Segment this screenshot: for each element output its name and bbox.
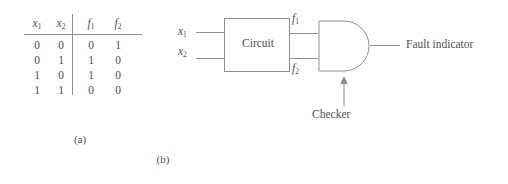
truth-table: x1 x2 f1 f2 0 0 0 1 0 1 1 0 1 0 1 0 1 1 … (24, 14, 142, 98)
signal-label-f2: f2 (292, 62, 299, 76)
table-row: 0 (107, 53, 129, 67)
caption-part-a: (a) (0, 133, 160, 145)
signal-label-f1: f1 (292, 12, 299, 26)
signal-wire-f2 (290, 58, 318, 59)
circuit-block: Circuit (224, 18, 290, 72)
checker-arrow-icon (338, 76, 350, 106)
table-row: 1 (26, 68, 48, 82)
table-row: 0 (50, 38, 72, 52)
table-row: 0 (107, 83, 129, 97)
table-row: 0 (50, 68, 72, 82)
table-header-x1: x1 (26, 16, 48, 34)
output-label: Fault indicator (406, 38, 473, 50)
table-header-f2: f2 (107, 16, 129, 34)
table-row: 1 (80, 53, 102, 67)
table-header-f1: f1 (80, 16, 102, 34)
table-row: 0 (80, 38, 102, 52)
table-row: 1 (50, 53, 72, 67)
input-label-x1: x1 (178, 25, 187, 39)
table-header-x2: x2 (50, 16, 72, 34)
table-top-rule (24, 34, 142, 35)
table-row: 1 (80, 68, 102, 82)
input-wire-x2 (196, 58, 224, 59)
table-row: 1 (26, 83, 48, 97)
signal-wire-f1 (290, 33, 318, 34)
table-vertical-divider (72, 14, 73, 95)
table-row: 0 (107, 68, 129, 82)
table-row: 1 (107, 38, 129, 52)
input-label-x2: x2 (178, 45, 187, 59)
table-row: 1 (50, 83, 72, 97)
caption-part-b: (b) (103, 153, 223, 165)
table-row: 0 (26, 38, 48, 52)
output-wire (370, 45, 400, 46)
figure-root: x1 x2 f1 f2 0 0 0 1 0 1 1 0 1 0 1 0 1 1 … (0, 0, 508, 184)
table-row: 0 (80, 83, 102, 97)
table-row: 0 (26, 53, 48, 67)
and-gate-icon (318, 20, 370, 72)
circuit-block-label: Circuit (225, 37, 291, 49)
input-wire-x1 (196, 32, 224, 33)
checker-annotation-label: Checker (312, 108, 350, 120)
